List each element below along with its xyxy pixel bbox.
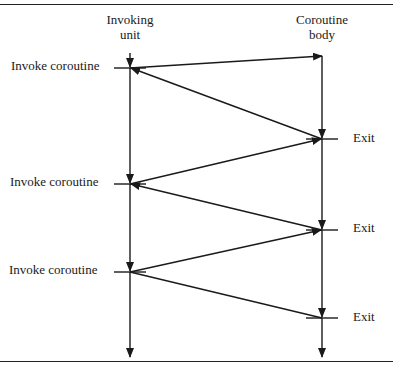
coroutine-control-flow-diagram (0, 0, 393, 373)
transfer-invoke-3-arrow (130, 230, 321, 272)
return-exit-1-arrow (131, 68, 322, 139)
transfer-invoke-2-arrow (130, 139, 321, 184)
return-exit-2-arrow (131, 184, 322, 230)
transfer-invoke-3-to-exit-line (130, 272, 322, 318)
transfer-invoke-1-arrow (130, 56, 322, 68)
